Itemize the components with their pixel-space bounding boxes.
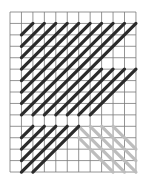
stitch-diagram (0, 0, 142, 180)
diagonal-stitch (21, 126, 32, 137)
diagonal-stitch (21, 23, 32, 34)
canvas-grid (10, 12, 136, 172)
diagonal-stitch (21, 69, 32, 80)
